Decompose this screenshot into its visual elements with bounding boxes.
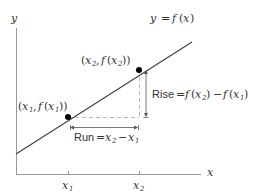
svg-text:x: x — [22, 100, 29, 113]
x1-tick-label: x1 — [62, 179, 73, 193]
svg-text:x: x — [62, 179, 69, 192]
svg-text:=: = — [176, 88, 185, 101]
svg-text:f: f — [100, 54, 107, 67]
svg-text:x: x — [183, 12, 190, 25]
run-arrow — [70, 125, 139, 130]
svg-text:1: 1 — [69, 185, 73, 193]
svg-text:x: x — [133, 179, 140, 192]
rise-arrow — [144, 70, 149, 118]
point-2 — [136, 67, 142, 73]
y-axis-label: y — [10, 12, 18, 25]
svg-text:2: 2 — [139, 185, 145, 193]
svg-text:2: 2 — [111, 137, 117, 145]
rise-label: Rise = f ( x2 ) − f ( x1 ) — [152, 88, 248, 102]
svg-text:,: , — [96, 54, 100, 67]
curve-label: y = f ( x ) — [149, 12, 194, 25]
svg-text:f: f — [37, 100, 44, 113]
svg-text:)): )) — [59, 100, 68, 113]
svg-text:): ) — [244, 88, 248, 101]
svg-text:f: f — [171, 12, 178, 25]
slope-diagram: y x x1 x2 y = f ( x ) ( x1 , f ( x1 )) (… — [0, 0, 262, 195]
svg-text:x: x — [233, 88, 240, 101]
x2-tick-label: x2 — [133, 179, 145, 193]
svg-text:=: = — [96, 131, 105, 144]
svg-text:): ) — [206, 88, 210, 101]
point-2-label: ( x2 , f ( x2 )) — [81, 54, 131, 68]
svg-text:y: y — [149, 12, 157, 25]
svg-text:)): )) — [122, 54, 131, 67]
run-label: Run = x2 − x1 — [74, 131, 139, 145]
point-1 — [65, 114, 71, 120]
svg-text:f: f — [184, 88, 191, 101]
svg-text:−: − — [118, 131, 127, 144]
svg-text:x: x — [128, 131, 135, 144]
svg-text:,: , — [33, 100, 37, 113]
svg-text:x: x — [85, 54, 92, 67]
svg-text:x: x — [48, 100, 55, 113]
svg-text:=: = — [161, 12, 170, 25]
svg-text:x: x — [105, 131, 112, 144]
svg-text:f: f — [222, 88, 229, 101]
svg-text:Rise: Rise — [152, 88, 174, 100]
svg-text:1: 1 — [135, 137, 139, 145]
svg-text:): ) — [190, 12, 194, 25]
x-axis-label: x — [207, 166, 214, 179]
svg-text:Run: Run — [74, 131, 94, 143]
svg-text:−: − — [213, 88, 222, 101]
svg-text:x: x — [111, 54, 118, 67]
svg-text:x: x — [195, 88, 202, 101]
point-1-label: ( x1 , f ( x1 )) — [18, 100, 68, 114]
